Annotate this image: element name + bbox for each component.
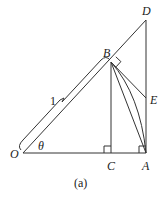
brace-OB [19,58,110,151]
length-label: 1 [50,94,56,108]
point-label-C: C [107,159,116,173]
point-label-A: A [141,159,150,173]
geometry-diagram: O C A B D E θ 1 (a) [0,0,165,199]
point-label-O: O [10,147,19,161]
point-label-E: E [149,93,158,107]
angle-label-theta: θ [38,139,44,153]
right-angle-C [104,146,111,153]
figure-caption: (a) [74,176,87,190]
segment-BA [111,62,146,153]
point-label-D: D [141,4,151,18]
right-angle-B [116,57,121,67]
segment-BE [111,62,146,98]
point-label-B: B [103,46,111,60]
